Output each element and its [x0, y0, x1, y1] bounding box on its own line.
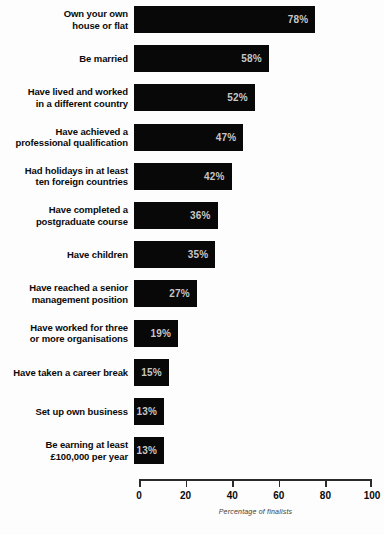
bar: 78%	[134, 6, 315, 33]
bar-category-label: Have taken a career break	[0, 367, 134, 379]
bar-track: 58%	[134, 45, 384, 72]
bars-area: Own your own house or flat78%Be married5…	[0, 0, 384, 470]
bar-row: Have lived and worked in a different cou…	[0, 84, 384, 111]
bar-track: 35%	[134, 241, 384, 268]
bar: 13%	[134, 398, 164, 425]
bar-category-label: Have completed a postgraduate course	[0, 204, 134, 227]
x-axis-caption: Percentage of finalists	[139, 508, 372, 515]
bar-category-label: Had holidays in at least ten foreign cou…	[0, 165, 134, 188]
bar-value-label: 27%	[169, 288, 197, 299]
bar-track: 47%	[134, 124, 384, 151]
x-axis: 020406080100	[139, 479, 372, 480]
bar-category-label: Own your own house or flat	[0, 8, 134, 31]
bar-value-label: 52%	[227, 92, 255, 103]
bar-track: 42%	[134, 163, 384, 190]
bar: 13%	[134, 437, 164, 464]
x-axis-tick	[325, 479, 327, 487]
x-axis-tick-label: 0	[136, 490, 142, 501]
bar-track: 13%	[134, 398, 384, 425]
bar-value-label: 78%	[288, 14, 316, 25]
bar-value-label: 13%	[137, 445, 165, 456]
x-axis-tick	[139, 479, 141, 487]
bar: 27%	[134, 280, 197, 307]
bar-row: Be married58%	[0, 45, 384, 72]
bar-value-label: 42%	[204, 171, 232, 182]
bar-row: Own your own house or flat78%	[0, 6, 384, 33]
bar-row: Have taken a career break15%	[0, 359, 384, 386]
bar-row: Had holidays in at least ten foreign cou…	[0, 163, 384, 190]
bar-row: Be earning at least £100,000 per year13%	[0, 437, 384, 464]
bar-value-label: 13%	[137, 406, 165, 417]
x-axis-tick-label: 60	[273, 490, 284, 501]
bar-value-label: 36%	[190, 210, 218, 221]
bar-row: Have children35%	[0, 241, 384, 268]
x-axis-tick	[186, 479, 188, 487]
bar-row: Set up own business13%	[0, 398, 384, 425]
x-axis-tick-label: 80	[320, 490, 331, 501]
bar-category-label: Have achieved a professional qualificati…	[0, 126, 134, 149]
bar-row: Have reached a senior management positio…	[0, 280, 384, 307]
x-axis-tick-label: 20	[180, 490, 191, 501]
bar-row: Have achieved a professional qualificati…	[0, 124, 384, 151]
x-axis-tick	[370, 479, 372, 487]
bar-track: 36%	[134, 202, 384, 229]
x-axis-tick-label: 100	[364, 490, 381, 501]
x-axis-tick	[279, 479, 281, 487]
bar: 15%	[134, 359, 169, 386]
bar-category-label: Have reached a senior management positio…	[0, 282, 134, 305]
bar-category-label: Have lived and worked in a different cou…	[0, 86, 134, 109]
bar-track: 78%	[134, 6, 384, 33]
bar-value-label: 58%	[241, 53, 269, 64]
bar: 52%	[134, 84, 255, 111]
bar-row: Have completed a postgraduate course36%	[0, 202, 384, 229]
bar: 42%	[134, 163, 232, 190]
bar-value-label: 35%	[188, 249, 216, 260]
bar: 19%	[134, 320, 178, 347]
bar-category-label: Have children	[0, 249, 134, 261]
bar-category-label: Be married	[0, 53, 134, 65]
bar-track: 19%	[134, 320, 384, 347]
bar: 36%	[134, 202, 218, 229]
bar-chart: Own your own house or flat78%Be married5…	[0, 0, 384, 535]
x-axis-tick	[232, 479, 234, 487]
bar-value-label: 19%	[151, 328, 179, 339]
bar-track: 52%	[134, 84, 384, 111]
bar-category-label: Set up own business	[0, 406, 134, 418]
bar-track: 13%	[134, 437, 384, 464]
bar-row: Have worked for three or more organisati…	[0, 320, 384, 347]
x-axis-line	[139, 479, 372, 481]
bar-track: 15%	[134, 359, 384, 386]
bar: 58%	[134, 45, 269, 72]
bar-category-label: Have worked for three or more organisati…	[0, 322, 134, 345]
x-axis-tick-label: 40	[227, 490, 238, 501]
bar-value-label: 47%	[216, 132, 244, 143]
bar-track: 27%	[134, 280, 384, 307]
bar: 47%	[134, 124, 243, 151]
bar-value-label: 15%	[141, 367, 169, 378]
bar: 35%	[134, 241, 215, 268]
bar-category-label: Be earning at least £100,000 per year	[0, 439, 134, 462]
